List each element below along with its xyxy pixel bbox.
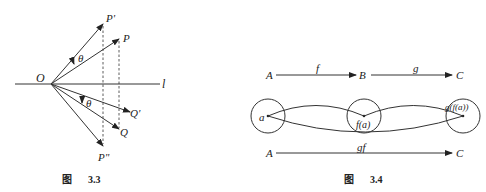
label-P-prime: P' bbox=[105, 12, 116, 24]
label-P: P bbox=[122, 32, 130, 44]
figures-canvas: l O θ θ P' P Q' Q P" 图 3.3 A f B g C bbox=[0, 0, 486, 192]
caption-prefix: 图 bbox=[62, 174, 72, 185]
vector-OP bbox=[51, 39, 119, 84]
caption-number: 3.4 bbox=[370, 174, 383, 185]
label-theta-lower: θ bbox=[86, 97, 92, 109]
figure-3-4: A f B g C a f(a) g(f(a)) gf A C 图 3.4 bbox=[251, 62, 480, 185]
label-Q: Q bbox=[120, 126, 128, 138]
figure-3-3: l O θ θ P' P Q' Q P" 图 3.3 bbox=[15, 12, 166, 185]
vector-OP-prime bbox=[51, 24, 103, 84]
label-a: a bbox=[259, 111, 265, 123]
vector-OQ bbox=[51, 84, 119, 129]
label-fa: f(a) bbox=[356, 119, 371, 131]
theta-arc-upper-icon bbox=[72, 60, 74, 64]
label-g: g bbox=[413, 62, 419, 74]
caption-prefix: 图 bbox=[344, 174, 354, 185]
label-f: f bbox=[316, 62, 321, 74]
label-A-bottom: A bbox=[265, 147, 273, 159]
theta-arc-lower-icon bbox=[82, 96, 83, 103]
label-C-bottom: C bbox=[456, 147, 464, 159]
label-Q-prime: Q' bbox=[130, 107, 141, 119]
label-theta-upper: θ bbox=[78, 52, 84, 64]
label-l: l bbox=[162, 77, 166, 91]
caption-number: 3.3 bbox=[88, 174, 101, 185]
label-P-double: P" bbox=[97, 151, 110, 163]
label-gf: gf bbox=[357, 141, 368, 153]
label-A-top: A bbox=[265, 69, 273, 81]
label-gfa: g(f(a)) bbox=[445, 102, 469, 112]
label-C-top: C bbox=[456, 69, 464, 81]
label-B: B bbox=[359, 69, 366, 81]
label-O: O bbox=[36, 71, 45, 85]
